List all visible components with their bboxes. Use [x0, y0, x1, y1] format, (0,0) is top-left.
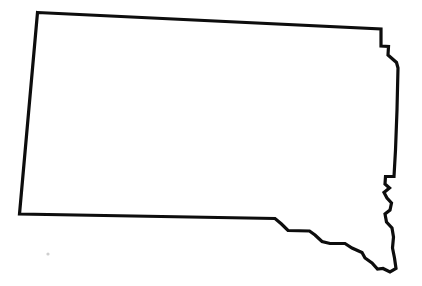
map-canvas	[0, 0, 422, 286]
state-outline-map-svg	[0, 0, 422, 286]
stray-speck	[46, 252, 49, 255]
